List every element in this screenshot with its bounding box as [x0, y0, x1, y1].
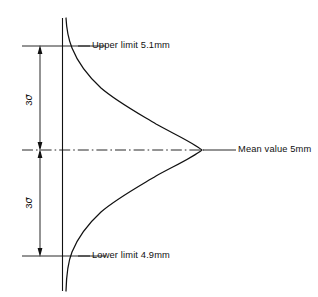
lower-sigma-symbol: σ — [23, 196, 34, 203]
mean-value-label: Mean value 5mm — [238, 144, 312, 154]
upper-sigma-symbol: σ — [23, 93, 34, 100]
upper-sigma-label-group: 3σ — [23, 93, 34, 105]
lower-sigma-label-group: 3σ — [23, 196, 34, 208]
upper-sigma-label: 3σ — [23, 93, 34, 105]
upper-limit-label: Upper limit 5.1mm — [92, 40, 170, 50]
lower-limit-label: Lower limit 4.9mm — [92, 250, 170, 260]
distribution-diagram-canvas: Upper limit 5.1mm Mean value 5mm Lower l… — [0, 0, 318, 297]
distribution-figure: Upper limit 5.1mm Mean value 5mm Lower l… — [0, 0, 318, 297]
lower-sigma-label: 3σ — [23, 196, 34, 208]
